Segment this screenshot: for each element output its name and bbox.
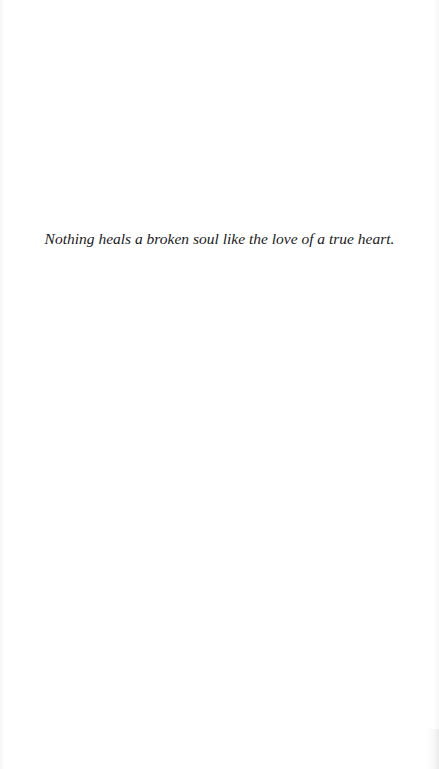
scan-corner-shadow — [427, 729, 439, 769]
scan-edge-right — [434, 0, 439, 769]
epigraph-quote: Nothing heals a broken soul like the lov… — [0, 229, 439, 249]
book-page: Nothing heals a broken soul like the lov… — [0, 0, 439, 769]
scan-edge-left — [0, 0, 5, 769]
